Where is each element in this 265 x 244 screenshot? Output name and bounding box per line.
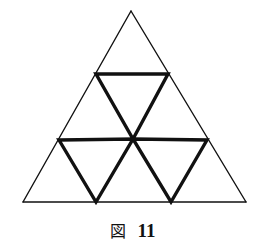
bottom-left-inverted-triangle bbox=[59, 139, 133, 202]
triangle-figure bbox=[0, 0, 265, 244]
caption-number: 11 bbox=[138, 220, 156, 242]
top-inverted-triangle bbox=[96, 74, 168, 139]
figure-caption: 図11 bbox=[0, 218, 265, 242]
caption-label: 図 bbox=[110, 218, 126, 242]
outer-triangle bbox=[23, 11, 246, 202]
bold-inverted-triangles bbox=[59, 74, 207, 202]
bottom-right-inverted-triangle bbox=[133, 139, 207, 202]
